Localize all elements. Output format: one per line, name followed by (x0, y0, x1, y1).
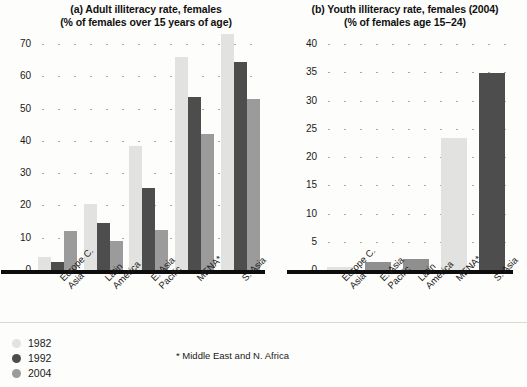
y-axis-tick-label: 5 (311, 237, 317, 247)
chart-b-bars (321, 44, 511, 270)
chart-b-y-axis: 0510152025303540 (289, 44, 317, 270)
chart-a-panel: 010203040506070 Europe C. AsiaLatin Amer… (0, 38, 288, 338)
bar (479, 73, 505, 270)
chart-b-panel: 0510152025303540 Europe C. AsiaE. Asia P… (288, 38, 527, 338)
legend-item: 2004 (12, 366, 122, 381)
y-axis-tick-label: 35 (306, 67, 317, 77)
y-axis-tick-label: 30 (20, 168, 31, 178)
y-axis-tick-label: 10 (20, 233, 31, 243)
bar (247, 99, 260, 270)
bar (201, 134, 214, 270)
bar-group (172, 44, 218, 270)
chart-a-bars (35, 44, 263, 270)
bar (129, 146, 142, 270)
legend-item-label: 1982 (28, 338, 51, 349)
bar-group (321, 44, 359, 270)
y-axis-tick-label: 70 (20, 39, 31, 49)
bar-group (126, 44, 172, 270)
legend: 1982 1992 2004 (12, 336, 122, 381)
legend-swatch-icon (12, 369, 21, 378)
y-axis-tick-label: 15 (306, 180, 317, 190)
chart-b-title: (b) Youth illiteracy rate, females (2004… (288, 3, 522, 29)
chart-b-plot-area (321, 44, 511, 270)
y-axis-tick-label: 50 (20, 104, 31, 114)
legend-item: 1982 (12, 336, 122, 351)
divider (0, 322, 527, 323)
bar-group (81, 44, 127, 270)
legend-item-label: 1992 (28, 353, 51, 364)
chart-a-y-axis: 010203040506070 (3, 44, 31, 270)
bar-group (397, 44, 435, 270)
y-axis-tick-label: 20 (20, 200, 31, 210)
legend-swatch-icon (12, 354, 21, 363)
bar-group (35, 44, 81, 270)
bar (441, 138, 467, 270)
bar-group (217, 44, 263, 270)
footnote: * Middle East and N. Africa (176, 350, 376, 361)
legend-swatch-icon (12, 339, 21, 348)
bar-group (359, 44, 397, 270)
legend-item: 1992 (12, 351, 122, 366)
bar-group (435, 44, 473, 270)
chart-b-title-line1: (b) Youth illiteracy rate, females (2004… (288, 3, 522, 16)
bar (221, 34, 234, 270)
chart-a-title-line1: (a) Adult illiteracy rate, females (8, 3, 284, 16)
y-axis-tick-label: 60 (20, 71, 31, 81)
chart-b-title-line2: (% of females age 15–24) (288, 16, 522, 29)
y-axis-tick-label: 25 (306, 124, 317, 134)
bar (175, 57, 188, 270)
y-axis-tick-label: 10 (306, 209, 317, 219)
y-axis-tick-label: 20 (306, 152, 317, 162)
bar-group (473, 44, 511, 270)
legend-item-label: 2004 (28, 368, 51, 379)
chart-a-title-line2: (% of females over 15 years of age) (8, 16, 284, 29)
y-axis-tick-label: 30 (306, 96, 317, 106)
bar (38, 257, 51, 270)
bar (234, 62, 247, 270)
bar (142, 188, 155, 270)
y-axis-tick-label: 40 (20, 136, 31, 146)
y-axis-tick-label: 40 (306, 39, 317, 49)
figure-root: (a) Adult illiteracy rate, females (% of… (0, 0, 527, 387)
bar (188, 97, 201, 270)
chart-a-plot-area (35, 44, 263, 270)
chart-a-title: (a) Adult illiteracy rate, females (% of… (8, 3, 284, 29)
